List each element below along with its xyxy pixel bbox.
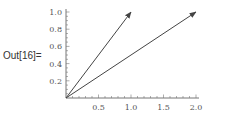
x-tick-label: 0.5 [92,103,105,112]
y-tick-label: 0.8 [49,25,62,34]
y-tick-label: 0.2 [49,77,62,86]
vector-2-arrow [66,12,196,98]
vector-1-arrow [66,12,131,98]
x-tick-label: 1.5 [157,103,170,112]
y-tick-label: 0.6 [49,42,62,51]
x-tick-label: 1.0 [125,103,138,112]
y-tick-label: 0.4 [49,60,62,69]
y-tick-label: 1.0 [49,8,62,17]
x-tick-label: 2.0 [190,103,203,112]
vector-plot: 0.51.01.52.00.20.40.60.81.0 [0,0,246,116]
